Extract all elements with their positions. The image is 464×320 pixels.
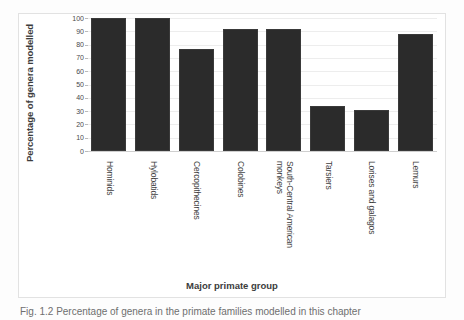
x-tick-label: Colobines	[235, 161, 245, 197]
x-label-slot: Lemurs	[393, 159, 437, 274]
x-tick-label: Tarsiers	[323, 161, 333, 190]
bar	[354, 110, 389, 151]
x-tick-label: Cercopithecines	[192, 161, 202, 220]
bar-series	[87, 18, 437, 151]
x-label-slot: South-Central American monkeys	[262, 159, 306, 274]
x-tick-label: Lemurs	[410, 161, 420, 188]
figure-caption: Fig. 1.2 Percentage of genera in the pri…	[20, 306, 440, 320]
x-tick-label: Hominids	[104, 161, 114, 195]
bar	[135, 18, 170, 151]
y-tick-label: 90	[67, 28, 84, 35]
bar	[310, 106, 345, 151]
y-tick-label: 20	[67, 121, 84, 128]
y-tick-label: 70	[67, 54, 84, 61]
y-tick-mark	[85, 151, 88, 152]
bar-slot	[218, 18, 262, 151]
y-axis-title-wrap: Percentage of genera modelled	[27, 18, 41, 158]
bar-slot	[306, 18, 350, 151]
gridline	[87, 151, 437, 152]
x-tick-label: South-Central American monkeys	[274, 161, 293, 248]
bar	[398, 34, 433, 151]
x-tick-labels: HominidsHylobatidsCercopithecinesColobin…	[87, 159, 437, 274]
bar-slot	[350, 18, 394, 151]
y-tick-label: 80	[67, 41, 84, 48]
bar-slot	[131, 18, 175, 151]
chart-frame: Percentage of genera modelled 0102030405…	[18, 13, 446, 298]
bar	[179, 49, 214, 151]
bar-slot	[87, 18, 131, 151]
bar	[91, 18, 126, 151]
x-label-slot: Lorises and galagos	[350, 159, 394, 274]
y-tick-label: 10	[67, 134, 84, 141]
x-tick-label: Hylobatids	[148, 161, 158, 199]
plot-inner: 0102030405060708090100	[67, 18, 437, 157]
x-tick-label: Lorises and galagos	[367, 161, 377, 234]
x-label-slot: Tarsiers	[306, 159, 350, 274]
y-tick-label: 100	[67, 15, 84, 22]
figure-page: Percentage of genera modelled 0102030405…	[0, 0, 464, 320]
bar-slot	[393, 18, 437, 151]
x-label-slot: Cercopithecines	[175, 159, 219, 274]
plot-area: 0102030405060708090100	[67, 18, 437, 157]
y-tick-label: 50	[67, 81, 84, 88]
bar	[223, 29, 258, 151]
y-axis-title: Percentage of genera modelled	[23, 18, 37, 168]
y-tick-label: 0	[67, 148, 84, 155]
y-tick-label: 30	[67, 108, 84, 115]
x-label-slot: Hylobatids	[131, 159, 175, 274]
bar-slot	[175, 18, 219, 151]
x-label-slot: Colobines	[218, 159, 262, 274]
y-tick-label: 60	[67, 68, 84, 75]
x-axis-title: Major primate group	[19, 280, 445, 291]
y-tick-label: 40	[67, 94, 84, 101]
bar	[266, 29, 301, 151]
x-label-slot: Hominids	[87, 159, 131, 274]
bar-slot	[262, 18, 306, 151]
